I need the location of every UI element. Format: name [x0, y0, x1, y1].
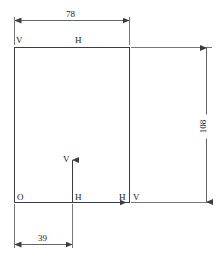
dimension-label-width: 78 — [64, 10, 77, 19]
label-axis-v: V — [63, 155, 70, 164]
dimension-label-height: 108 — [199, 115, 208, 139]
label-right-edge-v: V — [133, 193, 140, 202]
label-top-left-v: V — [16, 36, 23, 45]
label-axis-h-end: H — [119, 193, 126, 202]
label-origin: O — [17, 193, 24, 202]
technical-drawing-canvas: 78 108 39 V H V O H H V — [0, 0, 220, 263]
top-dimension-width — [15, 17, 130, 45]
drawing-vector-layer — [0, 0, 220, 263]
label-top-h: H — [75, 36, 82, 45]
label-axis-origin-h: H — [75, 193, 82, 202]
dimension-label-offset: 39 — [36, 234, 49, 243]
